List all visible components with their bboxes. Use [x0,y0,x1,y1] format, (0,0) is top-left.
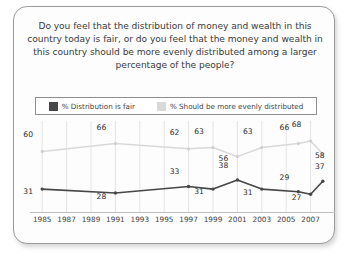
value-label: 66 [280,123,290,132]
value-label: 31 [243,188,253,197]
chart-legend: % Distribution is fair % Should be more … [35,97,317,115]
value-label: 31 [194,187,204,196]
x-tick-1991: 1991 [106,215,125,224]
legend-label-even: % Should be more evenly distributed [170,102,303,111]
data-point [41,187,44,190]
x-axis-tick-labels: 1985198719891991199319951997199920012003… [30,215,335,229]
line-chart-svg [30,121,335,213]
data-point [236,155,239,158]
data-point [321,180,324,183]
value-label: 68 [292,120,302,129]
data-point [187,147,190,150]
value-label: 63 [243,127,253,136]
value-label: 38 [219,161,229,170]
series-line-even [42,141,323,157]
data-point [114,142,117,145]
value-label: 58 [315,151,325,160]
data-point [211,146,214,149]
value-label: 60 [23,130,33,139]
value-label: 29 [280,173,290,182]
chart-title: Do you feel that the distribution of mon… [23,20,327,72]
data-point [236,178,239,181]
x-tick-2005: 2005 [277,215,296,224]
x-tick-1993: 1993 [131,215,150,224]
x-tick-2001: 2001 [228,215,247,224]
value-label: 31 [23,187,33,196]
legend-entry-should-be-more-evenly-distributed[interactable]: % Should be more evenly distributed [157,102,303,111]
legend-swatch-icon-even [157,102,166,111]
x-tick-1995: 1995 [155,215,174,224]
x-tick-1985: 1985 [33,215,52,224]
data-point [114,191,117,194]
data-point [41,150,44,153]
x-tick-1989: 1989 [82,215,101,224]
legend-entry-distribution-is-fair[interactable]: % Distribution is fair [49,102,135,111]
value-label: 37 [315,162,325,171]
legend-swatch-icon-fair [49,102,58,111]
value-label: 28 [97,192,107,201]
x-tick-1999: 1999 [204,215,223,224]
x-tick-2007: 2007 [301,215,320,224]
value-label: 33 [170,167,180,176]
data-point [309,139,312,142]
data-point [260,187,263,190]
value-label: 63 [194,127,204,136]
data-point [211,187,214,190]
data-point [309,193,312,196]
data-point [187,185,190,188]
value-label: 66 [97,123,107,132]
data-point [260,146,263,149]
value-label: 62 [170,128,180,137]
legend-label-fair: % Distribution is fair [62,102,135,111]
x-tick-1997: 1997 [179,215,198,224]
series-line-fair [42,180,323,194]
plot-area [30,121,335,213]
x-tick-1987: 1987 [57,215,76,224]
data-point [297,142,300,145]
x-tick-2003: 2003 [253,215,272,224]
chart-screenshot: Do you feel that the distribution of mon… [0,0,349,255]
value-label: 27 [292,193,302,202]
